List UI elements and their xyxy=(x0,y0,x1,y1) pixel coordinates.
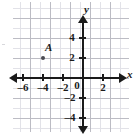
x-tick-mark-pos2 xyxy=(102,74,104,81)
y-tick-label-pos2: 2 xyxy=(66,52,78,63)
x-tick-mark-neg2 xyxy=(62,74,64,81)
y-tick-label-neg4: –4 xyxy=(62,112,78,123)
x-axis-label: x xyxy=(127,69,133,80)
y-axis-label: y xyxy=(84,4,89,15)
x-tick-label-pos2: 2 xyxy=(97,82,109,93)
origin-label: 0 xyxy=(72,80,82,91)
y-tick-label-neg2: –2 xyxy=(62,92,78,103)
x-tick-mark-neg6 xyxy=(22,74,24,81)
y-tick-label-pos4: 4 xyxy=(66,32,78,43)
plotted-point-a xyxy=(41,56,45,60)
x-tick-label-neg6: –6 xyxy=(15,82,31,93)
y-tick-mark-neg2 xyxy=(79,97,86,99)
x-axis-line xyxy=(16,77,122,79)
x-axis-arrow-right-icon xyxy=(119,73,127,83)
y-axis-arrow-down-icon xyxy=(78,126,88,134)
point-a-label: A xyxy=(45,42,52,53)
y-tick-mark-pos2 xyxy=(79,57,86,59)
y-tick-mark-neg4 xyxy=(79,117,86,119)
y-axis-arrow-up-icon xyxy=(78,15,88,23)
x-tick-label-neg4: –4 xyxy=(35,82,51,93)
x-tick-mark-neg4 xyxy=(42,74,44,81)
left-edge-artifact xyxy=(2,44,5,45)
y-tick-mark-pos4 xyxy=(79,37,86,39)
coordinate-plane-figure: –6 –4 –2 2 0 4 2 –2 –4 x y A xyxy=(0,0,138,136)
